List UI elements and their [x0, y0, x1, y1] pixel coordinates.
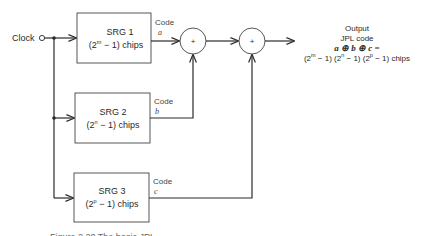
adder1-plus-icon: +	[191, 37, 196, 46]
srg1-block: SRG 1 (2m − 1) chips	[77, 13, 151, 63]
figure-caption-clipped: Figure 2.20 The basic JPL ...	[50, 232, 165, 236]
modulo2-adder-1: +	[180, 28, 206, 54]
srg2-box	[75, 93, 150, 143]
clock-label: Clock	[12, 33, 35, 43]
srg1-title: SRG 1	[106, 27, 133, 37]
srg3-code-label: Code	[153, 177, 173, 186]
srg1-code-label: Code	[155, 18, 175, 27]
output-label: Output	[345, 24, 370, 33]
srg3-block: SRG 3 (2p − 1) chips	[74, 173, 149, 222]
adder2-plus-icon: +	[250, 37, 255, 46]
clock-terminal-icon	[39, 35, 44, 40]
srg1-code-var: a	[158, 28, 162, 37]
srg3-code-var: c	[154, 187, 158, 196]
srg2-title: SRG 2	[99, 107, 126, 117]
srg3-chips: (2p − 1) chips	[86, 198, 139, 209]
srg2-code-var: b	[155, 107, 159, 116]
srg3-box	[74, 173, 149, 222]
output-chip-length: (2m − 1) (2n − 1) (2p − 1) chips	[304, 52, 410, 63]
output-description: Output JPL code a ⊕ b ⊕ c = (2m − 1) (2n…	[304, 24, 410, 63]
srg1-box	[77, 13, 151, 63]
output-jpl-code-label: JPL code	[340, 34, 374, 43]
srg3-title: SRG 3	[98, 186, 125, 196]
jpl-code-generator-diagram: Clock SRG 1 (2m − 1) chips Code a SRG 2 …	[0, 0, 427, 236]
srg2-chips: (2n − 1) chips	[87, 119, 140, 130]
figure-caption: Figure 2.20 The basic JPL ...	[50, 232, 165, 236]
srg2-block: SRG 2 (2n − 1) chips	[75, 93, 150, 143]
srg2-code-label: Code	[154, 97, 174, 106]
modulo2-adder-2: +	[239, 28, 265, 54]
